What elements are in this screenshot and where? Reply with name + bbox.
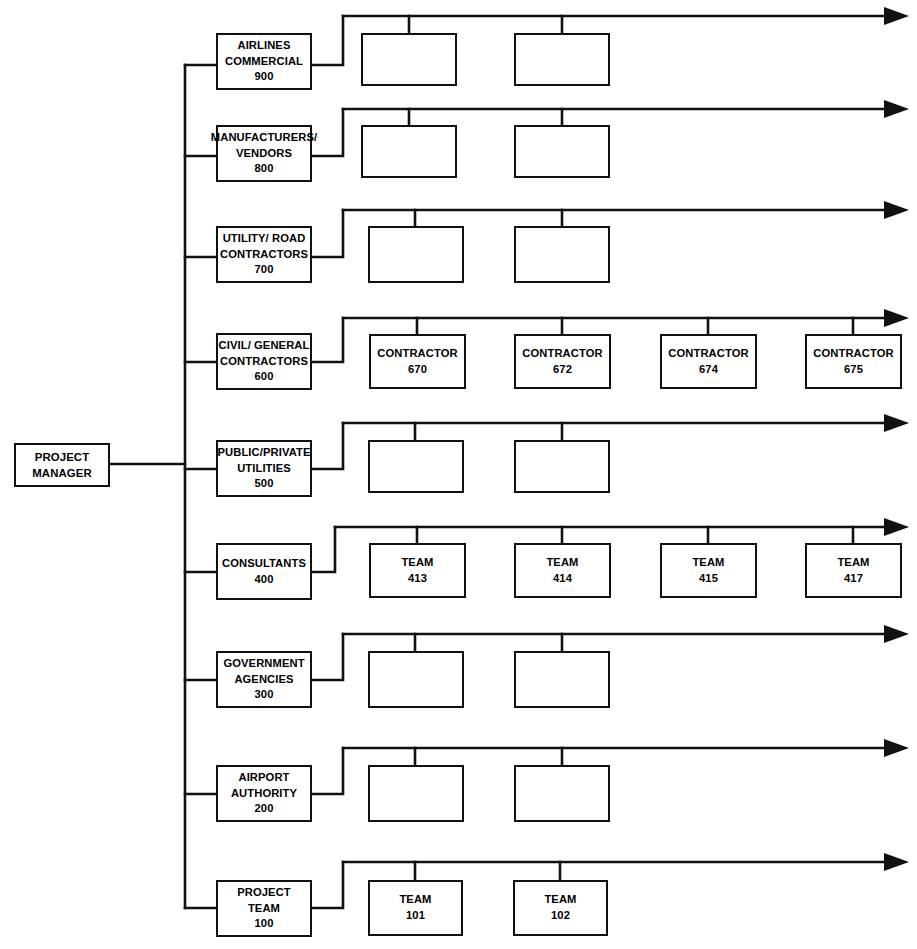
node-line-2: AGENCIES xyxy=(234,672,293,688)
node-code: 102 xyxy=(551,908,570,924)
node-civil-general-contractors[interactable]: CIVIL/ GENERAL CONTRACTORS 600 xyxy=(216,333,312,390)
node-line-1: CONTRACTOR xyxy=(813,346,893,362)
node-line-2: CONTRACTORS xyxy=(220,354,308,370)
arrowhead-branch-2 xyxy=(884,100,909,118)
node-airlines-commercial[interactable]: AIRLINES COMMERCIAL 900 xyxy=(216,33,312,90)
node-line-1: TEAM xyxy=(692,555,724,571)
node-project-team[interactable]: PROJECT TEAM 100 xyxy=(216,880,312,937)
arrowhead-branch-7 xyxy=(884,625,909,643)
node-line-1: PUBLIC/PRIVATE xyxy=(218,445,311,461)
arrowhead-branch-6 xyxy=(884,518,909,536)
node-code: 417 xyxy=(844,571,863,587)
node-utility-child-1[interactable] xyxy=(368,226,464,283)
org-chart-diagram: PROJECT MANAGER AIRLINES COMMERCIAL 900 … xyxy=(0,0,917,949)
node-line-2: COMMERCIAL xyxy=(225,54,303,70)
node-code: 415 xyxy=(699,571,718,587)
node-line-1: MANUFACTURERS/ xyxy=(211,130,317,146)
node-consultants[interactable]: CONSULTANTS 400 xyxy=(216,543,312,600)
node-team-102[interactable]: TEAM 102 xyxy=(513,880,608,936)
node-line-1: GOVERNMENT xyxy=(223,656,304,672)
node-airport-child-1[interactable] xyxy=(368,765,464,822)
node-code: 900 xyxy=(255,69,274,85)
node-code: 300 xyxy=(255,687,274,703)
arrowhead-branch-5 xyxy=(884,414,909,432)
node-code: 672 xyxy=(553,362,572,378)
node-airlines-child-2[interactable] xyxy=(514,33,610,86)
node-code: 414 xyxy=(553,571,572,587)
riser-branch-4 xyxy=(312,318,343,362)
node-line-2: MANAGER xyxy=(32,465,92,481)
node-team-415[interactable]: TEAM 415 xyxy=(660,543,757,598)
node-code: 800 xyxy=(255,161,274,177)
node-utility-road-contractors[interactable]: UTILITY/ ROAD CONTRACTORS 700 xyxy=(216,226,312,283)
node-line-1: AIRLINES xyxy=(237,38,290,54)
arrowhead-branch-4 xyxy=(884,309,909,327)
node-public-utilities-child-1[interactable] xyxy=(368,440,464,493)
node-code: 500 xyxy=(255,476,274,492)
node-airlines-child-1[interactable] xyxy=(361,33,457,86)
node-contractor-675[interactable]: CONTRACTOR 675 xyxy=(805,334,902,389)
node-code: 400 xyxy=(255,572,274,588)
node-contractor-674[interactable]: CONTRACTOR 674 xyxy=(660,334,757,389)
riser-branch-8 xyxy=(312,748,343,794)
node-team-417[interactable]: TEAM 417 xyxy=(805,543,902,598)
node-government-agencies[interactable]: GOVERNMENT AGENCIES 300 xyxy=(216,651,312,708)
node-code: 670 xyxy=(408,362,427,378)
node-team-101[interactable]: TEAM 101 xyxy=(368,880,463,936)
riser-branch-7 xyxy=(312,634,343,680)
node-manufacturers-child-1[interactable] xyxy=(361,125,457,178)
node-code: 700 xyxy=(255,262,274,278)
node-code: 675 xyxy=(844,362,863,378)
node-code: 100 xyxy=(255,916,274,932)
riser-branch-3 xyxy=(312,210,343,257)
node-contractor-672[interactable]: CONTRACTOR 672 xyxy=(514,334,611,389)
node-manufacturers-child-2[interactable] xyxy=(514,125,610,178)
node-line-2: AUTHORITY xyxy=(231,786,297,802)
node-team-413[interactable]: TEAM 413 xyxy=(369,543,466,598)
node-team-414[interactable]: TEAM 414 xyxy=(514,543,611,598)
node-line-1: TEAM xyxy=(544,892,576,908)
node-public-private-utilities[interactable]: PUBLIC/PRIVATE UTILITIES 500 xyxy=(216,440,312,497)
node-line-1: PROJECT xyxy=(237,885,291,901)
node-line-2: VENDORS xyxy=(236,146,292,162)
node-line-2: UTILITIES xyxy=(237,461,291,477)
node-government-child-1[interactable] xyxy=(368,651,464,708)
node-line-2: TEAM xyxy=(248,901,280,917)
node-line-1: AIRPORT xyxy=(238,770,289,786)
arrowhead-branch-3 xyxy=(884,201,909,219)
node-line-1: CONTRACTOR xyxy=(377,346,457,362)
node-public-utilities-child-2[interactable] xyxy=(514,440,610,493)
arrowhead-branch-1 xyxy=(884,7,909,25)
node-line-1: TEAM xyxy=(399,892,431,908)
arrowhead-branch-8 xyxy=(884,739,909,757)
node-utility-child-2[interactable] xyxy=(514,226,610,283)
node-line-1: CONTRACTOR xyxy=(668,346,748,362)
node-line-1: TEAM xyxy=(401,555,433,571)
node-line-1: CONTRACTOR xyxy=(522,346,602,362)
node-line-1: TEAM xyxy=(837,555,869,571)
node-project-manager[interactable]: PROJECT MANAGER xyxy=(14,443,110,487)
node-airport-child-2[interactable] xyxy=(514,765,610,822)
node-line-1: CONSULTANTS xyxy=(222,556,306,572)
node-code: 674 xyxy=(699,362,718,378)
node-line-2: CONTRACTORS xyxy=(220,247,308,263)
arrowhead-branch-9 xyxy=(884,853,909,871)
riser-branch-6 xyxy=(312,527,335,572)
node-code: 413 xyxy=(408,571,427,587)
node-airport-authority[interactable]: AIRPORT AUTHORITY 200 xyxy=(216,765,312,822)
node-line-1: PROJECT xyxy=(35,449,90,465)
node-line-1: UTILITY/ ROAD xyxy=(223,231,306,247)
node-contractor-670[interactable]: CONTRACTOR 670 xyxy=(369,334,466,389)
node-code: 200 xyxy=(255,801,274,817)
node-code: 101 xyxy=(406,908,425,924)
riser-branch-9 xyxy=(312,862,343,908)
node-line-1: CIVIL/ GENERAL xyxy=(219,338,310,354)
node-government-child-2[interactable] xyxy=(514,651,610,708)
riser-branch-5 xyxy=(312,423,343,469)
node-manufacturers-vendors[interactable]: MANUFACTURERS/ VENDORS 800 xyxy=(216,125,312,182)
node-code: 600 xyxy=(255,369,274,385)
riser-branch-1 xyxy=(312,16,343,65)
node-line-1: TEAM xyxy=(546,555,578,571)
